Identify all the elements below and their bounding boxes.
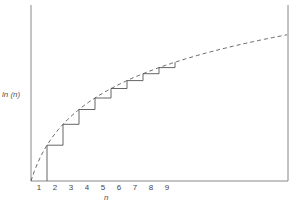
ln-curve bbox=[31, 35, 287, 181]
x-axis-title: n bbox=[104, 193, 108, 202]
x-tick-label: 8 bbox=[146, 183, 156, 192]
y-axis-title: ln (n) bbox=[2, 90, 20, 99]
x-tick-label: 6 bbox=[114, 183, 124, 192]
chart-canvas bbox=[0, 0, 296, 205]
x-tick-label: 7 bbox=[130, 183, 140, 192]
x-tick-label: 5 bbox=[98, 183, 108, 192]
x-tick-label: 2 bbox=[50, 183, 60, 192]
x-tick-label: 9 bbox=[162, 183, 172, 192]
staircase bbox=[47, 62, 175, 181]
x-tick-label: 1 bbox=[34, 183, 44, 192]
x-tick-label: 3 bbox=[66, 183, 76, 192]
x-tick-label: 4 bbox=[82, 183, 92, 192]
